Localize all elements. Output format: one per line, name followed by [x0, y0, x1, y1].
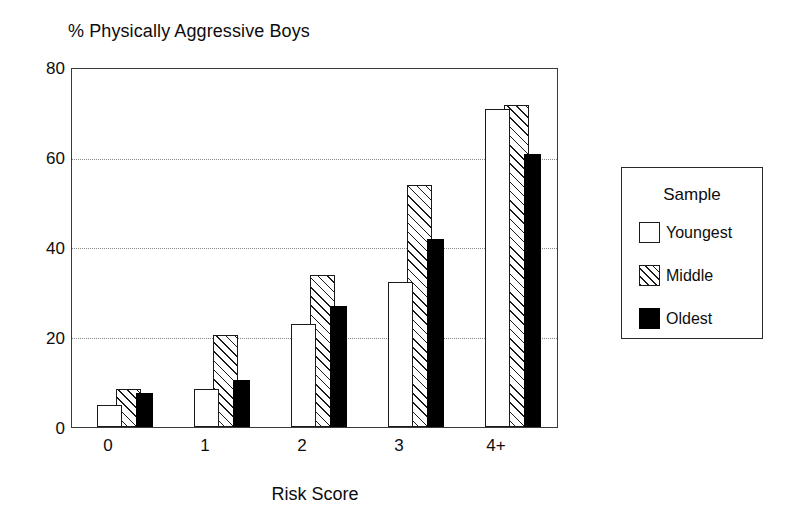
bar-oldest-2[interactable] — [330, 306, 347, 427]
y-tick-text-80: 80 — [46, 59, 65, 78]
y-tick-text-40: 40 — [46, 239, 65, 258]
x-axis-title: Risk Score — [0, 484, 630, 505]
x-tick-label-0: 0 — [78, 436, 138, 456]
y-tick-label-80: 80 — [13, 59, 65, 79]
legend-title: Sample — [622, 185, 762, 205]
white-square-icon — [639, 222, 660, 243]
y-tick-text-0: 0 — [56, 419, 65, 438]
x-tick-label-3: 3 — [369, 436, 429, 456]
y-tick-text-60: 60 — [46, 149, 65, 168]
y-tick-label-0: 0 — [13, 419, 65, 439]
legend-item-oldest[interactable]: Oldest — [639, 308, 712, 329]
x-tick-text-1: 1 — [200, 436, 209, 455]
y-tick-label-20: 20 — [13, 329, 65, 349]
x-tick-text-2: 2 — [297, 436, 306, 455]
bar-oldest-1[interactable] — [233, 380, 250, 427]
bar-youngest-4[interactable] — [485, 109, 510, 427]
bar-oldest-0[interactable] — [136, 393, 153, 427]
figure-canvas: % Physically Aggressive Boys 80 60 40 20… — [0, 0, 790, 529]
bar-oldest-4[interactable] — [524, 154, 541, 427]
bar-youngest-1[interactable] — [194, 389, 219, 427]
x-tick-label-2: 2 — [272, 436, 332, 456]
legend: Sample Youngest Middle Oldest — [621, 167, 763, 339]
y-tick-text-20: 20 — [46, 329, 65, 348]
legend-label-youngest: Youngest — [666, 224, 732, 242]
black-square-icon — [639, 308, 660, 329]
x-tick-text-0: 0 — [103, 436, 112, 455]
bar-youngest-0[interactable] — [97, 405, 122, 427]
chart-title: % Physically Aggressive Boys — [68, 21, 310, 42]
bar-oldest-3[interactable] — [427, 239, 444, 427]
plot-inner — [72, 69, 557, 427]
x-tick-text-4: 4+ — [486, 436, 505, 455]
legend-item-middle[interactable]: Middle — [639, 265, 713, 286]
legend-item-youngest[interactable]: Youngest — [639, 222, 732, 243]
bar-youngest-3[interactable] — [388, 282, 413, 427]
x-tick-label-1: 1 — [175, 436, 235, 456]
hatched-square-icon — [639, 265, 660, 286]
x-tick-label-4: 4+ — [466, 436, 526, 456]
y-tick-label-60: 60 — [13, 149, 65, 169]
legend-label-middle: Middle — [666, 267, 713, 285]
bar-youngest-2[interactable] — [291, 324, 316, 427]
y-tick-label-40: 40 — [13, 239, 65, 259]
plot-area — [71, 68, 558, 428]
x-tick-text-3: 3 — [394, 436, 403, 455]
legend-label-oldest: Oldest — [666, 310, 712, 328]
